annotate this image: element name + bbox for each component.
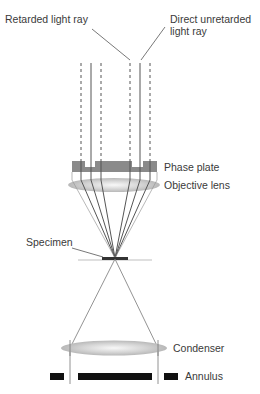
retarded-ray-pointer bbox=[92, 29, 130, 60]
direct-ray-pointer bbox=[141, 27, 165, 60]
label-retarded-ray: Retarded light ray bbox=[5, 13, 88, 25]
phase-plate bbox=[72, 161, 157, 172]
label-specimen: Specimen bbox=[26, 236, 73, 248]
label-annulus: Annulus bbox=[185, 370, 223, 382]
label-condenser: Condenser bbox=[173, 342, 224, 354]
converging-rays bbox=[72, 161, 157, 258]
phase-contrast-diagram bbox=[0, 0, 260, 394]
label-phase-plate: Phase plate bbox=[164, 161, 219, 173]
condenser-lens bbox=[61, 341, 167, 356]
illumination-cone bbox=[70, 259, 158, 384]
annulus bbox=[50, 373, 178, 380]
annulus-left-bar bbox=[50, 373, 64, 380]
objective-lens bbox=[68, 178, 160, 192]
label-direct-ray-line2: light ray bbox=[170, 25, 207, 37]
annulus-center-bar bbox=[78, 373, 152, 380]
annulus-right-bar bbox=[164, 373, 178, 380]
incoming-rays bbox=[81, 63, 150, 161]
label-direct-ray-line1: Direct unretarded bbox=[170, 13, 251, 25]
specimen-pointer bbox=[72, 248, 103, 257]
label-objective-lens: Objective lens bbox=[164, 179, 230, 191]
